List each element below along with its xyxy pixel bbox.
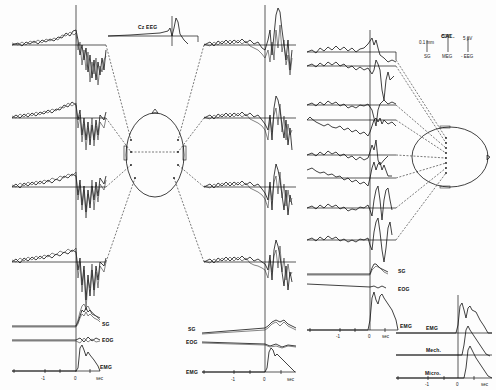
eog-trace xyxy=(202,342,296,348)
eog-trace xyxy=(307,284,386,288)
meg-trace-9 xyxy=(307,38,396,62)
meg-trace-3 xyxy=(12,172,106,218)
left-tick-minus1: -1 xyxy=(41,376,45,381)
inset-tick-sec: sec xyxy=(481,382,488,387)
left-panel xyxy=(12,5,198,373)
meg-trace-16 xyxy=(307,218,396,262)
eog-trace xyxy=(12,337,100,343)
cal-meg-label: MEG xyxy=(442,54,452,59)
right-sg-label: SG xyxy=(398,268,406,274)
meg-trace-8 xyxy=(204,240,296,290)
figure: .tr{fill:none;stroke:#111;stroke-width:0… xyxy=(0,0,496,390)
sg-trace xyxy=(307,264,388,275)
cz-eeg-label: Cz EEG xyxy=(138,24,157,30)
cal-eeg-label: - EEG xyxy=(461,54,473,59)
meg-trace-10 xyxy=(307,60,396,100)
middle-tick-0: 0 xyxy=(263,377,266,382)
inset-tick-0: 0 xyxy=(456,382,459,387)
cz-eeg-inset xyxy=(108,16,198,46)
cal-sg-value: 0.1 mm xyxy=(419,40,434,45)
head-side-view xyxy=(396,60,490,240)
right-tick-minus1: -1 xyxy=(336,334,340,339)
mech-inset-trace xyxy=(396,326,492,356)
right-tick-0: 0 xyxy=(368,334,371,339)
meg-trace-1 xyxy=(12,30,106,85)
meg-trace-7 xyxy=(204,164,296,215)
cal-sg-label: SG xyxy=(424,54,431,59)
cal-eeg-value: 5 µV xyxy=(463,36,472,41)
inset-mech-label: Mech. xyxy=(426,347,441,353)
left-tick-sec: sec xyxy=(96,376,103,381)
meg-trace-6 xyxy=(204,96,296,150)
meg-trace-15 xyxy=(307,186,396,220)
middle-tick-sec: sec xyxy=(287,377,294,382)
cal-meg-value: 50 fT xyxy=(442,34,452,39)
inset-emg-label: EMG xyxy=(426,325,438,331)
right-emg-label: EMG xyxy=(400,323,412,329)
bottom-right-inset xyxy=(396,295,492,380)
meg-trace-5 xyxy=(204,8,296,75)
inset-micro-label: Micro. xyxy=(425,370,441,376)
right-tick-sec: sec xyxy=(382,334,389,339)
inset-tick-minus1: -1 xyxy=(425,382,429,387)
emg-trace xyxy=(307,292,398,332)
middle-panel xyxy=(202,5,296,374)
meg-trace-13 xyxy=(307,140,396,165)
sg-trace xyxy=(12,304,100,327)
figure-artwork: .tr{fill:none;stroke:#111;stroke-width:0… xyxy=(0,0,496,390)
right-panel xyxy=(307,30,398,332)
middle-sg-label: SG xyxy=(188,326,196,332)
meg-trace-2 xyxy=(12,102,106,150)
left-emg-label: EMG xyxy=(100,364,112,370)
micro-inset-trace xyxy=(396,346,492,380)
left-sg-label: SG xyxy=(102,321,110,327)
meg-trace-12 xyxy=(307,117,396,136)
left-tick-0: 0 xyxy=(74,376,77,381)
middle-tick-minus1: -1 xyxy=(231,377,235,382)
right-eog-label: EOG xyxy=(398,286,410,292)
meg-trace-4 xyxy=(12,248,106,310)
emg-trace xyxy=(12,345,100,373)
middle-eog-label: EOG xyxy=(186,339,198,345)
meg-trace-14 xyxy=(307,162,396,186)
left-eog-label: EOG xyxy=(102,337,114,343)
head-top-view xyxy=(106,45,204,262)
middle-emg-label: EMG xyxy=(186,369,198,375)
emg-trace xyxy=(202,348,296,374)
sg-trace xyxy=(202,320,296,334)
